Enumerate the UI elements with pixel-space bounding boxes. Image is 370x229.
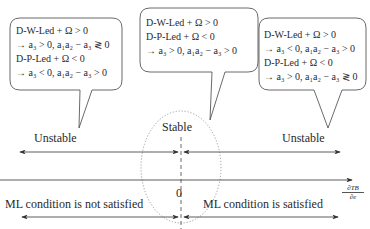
center-bubble-text: D-W-Led + Ω > 0 D-P-Led + Ω < 0 → a₃ > 0… — [146, 16, 237, 58]
center-bubble-line-2: D-P-Led + Ω < 0 — [146, 30, 237, 44]
right-bubble-line-1: D-W-Led + Ω > 0 — [264, 28, 357, 42]
left-bubble-line-3: D-P-Led + Ω < 0 — [16, 52, 109, 66]
ml-satisfied-label: ML condition is satisfied — [203, 197, 323, 212]
right-bubble-text: D-W-Led + Ω > 0 → a₃ < 0, a₁a₂ − a₃ > 0 … — [264, 28, 357, 84]
axis-label-fraction: ∂TB ∂e — [342, 184, 364, 201]
unstable-right-label: Unstable — [282, 131, 325, 146]
axis-label-numerator: ∂TB — [342, 184, 364, 193]
unstable-left-label: Unstable — [34, 131, 77, 146]
center-bubble-line-1: D-W-Led + Ω > 0 — [146, 16, 237, 30]
ml-not-satisfied-label: ML condition is not satisfied — [5, 197, 143, 212]
axis-label-denominator: ∂e — [342, 193, 364, 201]
origin-label: 0 — [176, 186, 182, 201]
left-bubble-text: D-W-Led + Ω > 0 → a₃ > 0, a₁a₂ − a₃ ≷ 0 … — [16, 24, 109, 80]
left-bubble-line-2: → a₃ > 0, a₁a₂ − a₃ ≷ 0 — [16, 38, 109, 52]
stable-label: Stable — [162, 120, 192, 135]
left-bubble-line-4: → a₃ < 0, a₁a₂ − a₃ > 0 — [16, 66, 109, 80]
right-bubble-line-4: → a₃ > 0, a₁a₂ − a₃ ≷ 0 — [264, 70, 357, 84]
right-bubble-line-3: D-P-Led + Ω < 0 — [264, 56, 357, 70]
left-bubble-line-1: D-W-Led + Ω > 0 — [16, 24, 109, 38]
center-bubble-line-3: → a₃ > 0, a₁a₂ − a₃ > 0 — [146, 44, 237, 58]
right-bubble-line-2: → a₃ < 0, a₁a₂ − a₃ > 0 — [264, 42, 357, 56]
